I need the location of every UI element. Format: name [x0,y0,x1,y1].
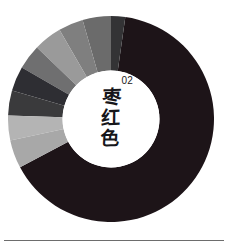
color-swatch-card: 02 枣 红 色 [0,0,228,250]
bottom-divider [4,240,224,241]
donut-chart-svg [8,16,214,222]
donut-center-hole [63,71,160,168]
donut-chart: 02 枣 红 色 [8,16,214,222]
